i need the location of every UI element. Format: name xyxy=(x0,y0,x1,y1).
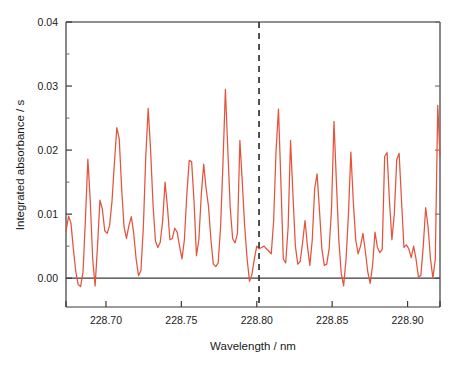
y-axis-title: Integrated absorbance / s xyxy=(14,100,26,231)
y-tick-label: 0.02 xyxy=(38,144,59,156)
x-tick-label: 228.85 xyxy=(316,314,348,326)
y-tick-label: 0.04 xyxy=(38,16,59,28)
x-tick-label: 228.80 xyxy=(241,314,273,326)
y-tick-label: 0.00 xyxy=(38,272,59,284)
y-tick-label: 0.03 xyxy=(38,80,59,92)
y-tick-label: 0.01 xyxy=(38,208,59,220)
x-tick-label: 228.70 xyxy=(90,314,122,326)
spectrum-plot: 0.000.010.020.030.04 228.70228.75228.802… xyxy=(0,0,454,365)
x-axis-title: Wavelength / nm xyxy=(210,340,296,352)
chart-figure: 0.000.010.020.030.04 228.70228.75228.802… xyxy=(0,0,454,365)
x-tick-label: 228.90 xyxy=(392,314,424,326)
x-tick-label: 228.75 xyxy=(165,314,197,326)
